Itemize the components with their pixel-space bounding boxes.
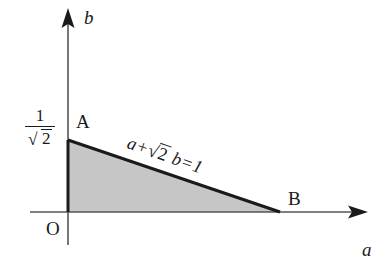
fraction-numerator: 1 bbox=[25, 107, 55, 126]
vertex-label-a: A bbox=[76, 112, 90, 131]
geometry-figure: b a A B O 1 √ 2 a+√2b=1 bbox=[0, 0, 389, 269]
radicand: 2 bbox=[41, 129, 52, 148]
a-axis-label: a bbox=[362, 240, 372, 259]
radical-sign-icon: √ bbox=[28, 130, 38, 148]
radical-expression: √ 2 bbox=[28, 129, 52, 148]
fraction: 1 √ 2 bbox=[25, 107, 55, 148]
origin-label: O bbox=[46, 219, 60, 238]
vertex-label-b: B bbox=[288, 189, 301, 208]
fraction-bar bbox=[25, 126, 55, 127]
fraction-denominator: √ 2 bbox=[25, 128, 55, 148]
b-axis-label: b bbox=[84, 8, 94, 27]
b-intercept-label: 1 √ 2 bbox=[18, 107, 62, 148]
